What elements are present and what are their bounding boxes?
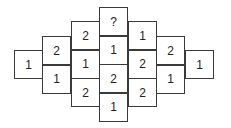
number-cell: 1	[128, 21, 157, 50]
number-cell: 1	[185, 50, 214, 79]
number-cell: 2	[71, 78, 100, 107]
number-cell: 1	[42, 65, 71, 94]
number-cell: 1	[156, 65, 185, 94]
number-cell: 2	[99, 64, 128, 93]
number-cell: 1	[14, 50, 43, 79]
number-cell: 1	[99, 93, 128, 122]
number-cell: 1	[71, 50, 100, 79]
number-cell: 2	[71, 21, 100, 50]
unknown-cell: ?	[99, 7, 128, 36]
number-cell: 2	[42, 36, 71, 65]
number-cell: 2	[156, 36, 185, 65]
number-cell: 2	[128, 50, 157, 79]
number-cell: 1	[99, 36, 128, 65]
number-cell: 2	[128, 78, 157, 107]
